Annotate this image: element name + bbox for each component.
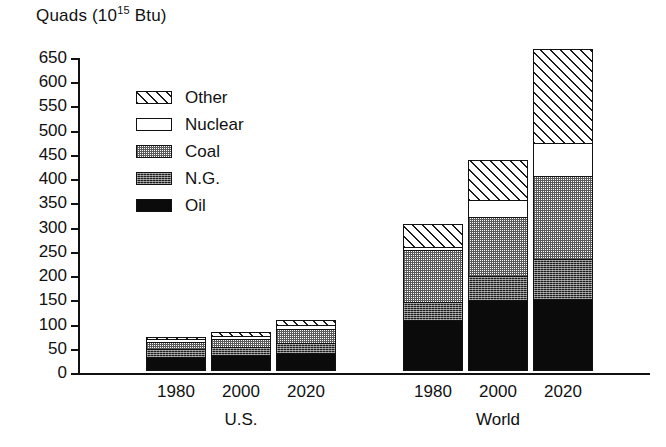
y-axis-tick xyxy=(71,349,79,351)
bar-segment-other xyxy=(469,161,527,201)
y-axis-tick-label: 200 xyxy=(39,266,67,286)
y-axis-tick-label: 650 xyxy=(39,48,67,68)
bar-segment-ng xyxy=(534,260,592,301)
y-axis-tick xyxy=(71,131,79,133)
legend-item: Other xyxy=(136,84,244,111)
y-axis-tick-label: 400 xyxy=(39,169,67,189)
bar-segment-other xyxy=(404,225,462,247)
white-swatch xyxy=(136,118,172,131)
bar-segment-oil xyxy=(404,321,462,371)
bar-segment-coal xyxy=(277,330,335,344)
bar-world-2020 xyxy=(533,49,593,371)
y-axis-tick-label: 600 xyxy=(39,72,67,92)
legend-item: N.G. xyxy=(136,165,244,192)
stacked-bar-chart: Quads (1015 Btu) 65060055050045040035030… xyxy=(0,0,666,447)
legend-item: Nuclear xyxy=(136,111,244,138)
bar-segment-ng xyxy=(277,344,335,354)
legend-item-label: Other xyxy=(185,88,228,108)
legend-item: Coal xyxy=(136,138,244,165)
bar-segment-ng xyxy=(469,277,527,301)
bar-segment-coal xyxy=(147,343,205,350)
bar-segment-ng xyxy=(404,303,462,321)
solid-black-swatch xyxy=(136,199,172,212)
y-axis-tick xyxy=(71,300,79,302)
y-axis-tick-label: 300 xyxy=(39,218,67,238)
x-axis-group-label: World xyxy=(476,410,520,430)
bar-us-2000 xyxy=(211,332,271,371)
bar-segment-oil xyxy=(469,301,527,371)
y-axis-tick xyxy=(71,276,79,278)
y-axis-tick xyxy=(71,203,79,205)
x-axis-line xyxy=(78,373,650,375)
bar-world-2000 xyxy=(468,160,528,371)
legend-item-label: Oil xyxy=(185,196,206,216)
y-axis-tick xyxy=(71,252,79,254)
x-axis-tick-label: 2020 xyxy=(544,382,582,402)
y-axis-tick-label: 100 xyxy=(39,315,67,335)
y-axis-tick xyxy=(71,179,79,181)
light-stipple-swatch xyxy=(136,145,172,158)
bar-segment-ng xyxy=(147,350,205,358)
legend-item-label: Nuclear xyxy=(185,115,244,135)
x-axis-group-label: U.S. xyxy=(224,410,257,430)
bar-segment-coal xyxy=(404,251,462,303)
bar-us-1980 xyxy=(146,337,206,371)
y-axis-tick xyxy=(71,155,79,157)
bar-segment-coal xyxy=(469,218,527,277)
bar-segment-ng xyxy=(212,348,270,356)
y-axis-line xyxy=(78,58,80,374)
y-axis-tick xyxy=(71,82,79,84)
y-axis-tick-label: 50 xyxy=(48,339,67,359)
bar-us-2020 xyxy=(276,320,336,371)
legend-item-label: Coal xyxy=(185,142,220,162)
y-axis-tick xyxy=(71,58,79,60)
y-axis-tick-label: 500 xyxy=(39,121,67,141)
y-axis-tick xyxy=(71,325,79,327)
y-axis-tick-label: 350 xyxy=(39,193,67,213)
diagonal-hatch-swatch xyxy=(136,91,172,104)
bar-world-1980 xyxy=(403,224,463,371)
y-axis-tick-label: 0 xyxy=(58,363,67,383)
bar-segment-nuclear xyxy=(534,144,592,177)
bar-segment-coal xyxy=(534,177,592,259)
y-axis-tick-label: 250 xyxy=(39,242,67,262)
chart-legend: OtherNuclearCoalN.G.Oil xyxy=(136,84,244,219)
y-axis-tick xyxy=(71,228,79,230)
chart-title: Quads (1015 Btu) xyxy=(36,6,167,26)
chart-title-exponent: 15 xyxy=(117,4,130,16)
y-axis-tick-label: 450 xyxy=(39,145,67,165)
y-axis-tick xyxy=(71,373,79,375)
x-axis-tick-label: 2000 xyxy=(479,382,517,402)
y-axis-tick-label: 550 xyxy=(39,96,67,116)
x-axis-tick-label: 2000 xyxy=(222,382,260,402)
legend-item: Oil xyxy=(136,192,244,219)
y-axis-tick-label: 150 xyxy=(39,290,67,310)
legend-item-label: N.G. xyxy=(185,169,220,189)
bar-segment-oil xyxy=(277,354,335,371)
bar-segment-other xyxy=(534,50,592,145)
bar-segment-oil xyxy=(147,358,205,371)
bar-segment-oil xyxy=(534,300,592,371)
chart-title-tail: Btu) xyxy=(130,6,167,25)
x-axis-tick-label: 1980 xyxy=(157,382,195,402)
y-axis-tick xyxy=(71,106,79,108)
bar-segment-nuclear xyxy=(469,201,527,218)
bar-segment-oil xyxy=(212,356,270,371)
x-axis-tick-label: 1980 xyxy=(414,382,452,402)
bar-segment-coal xyxy=(212,340,270,348)
dark-stipple-swatch xyxy=(136,172,172,185)
x-axis-tick-label: 2020 xyxy=(287,382,325,402)
chart-title-main: Quads (10 xyxy=(36,6,117,25)
